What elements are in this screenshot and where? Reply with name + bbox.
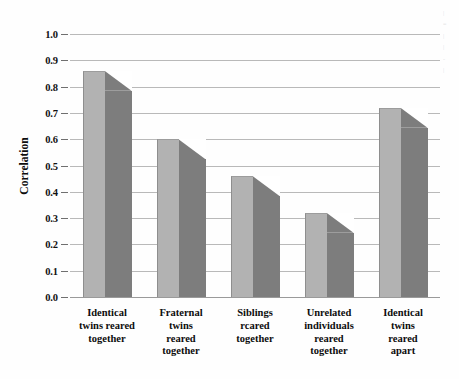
bar: Identicaltwinsrearedapart	[379, 108, 428, 297]
y-axis-tick-mark	[61, 139, 68, 140]
page-edge-caption-line: |	[443, 42, 457, 53]
x-axis-tick-label: Identicaltwins rearedtogether	[70, 307, 144, 345]
page-edge-caption-line: -	[443, 54, 457, 65]
x-axis-tick-label-line: rcared	[218, 320, 292, 333]
x-axis-tick-label-line: Identical	[366, 307, 440, 320]
y-axis-tick-label: 0.9	[45, 55, 58, 66]
x-axis-tick-label-line: apart	[366, 345, 440, 358]
plot-area: 1.00.90.80.70.60.50.40.30.20.10.0 Identi…	[70, 34, 440, 297]
bar-front-face	[83, 71, 105, 297]
bar-top-bevel	[327, 213, 354, 233]
bar-front-face	[305, 213, 327, 297]
y-axis-tick-mark	[61, 34, 68, 35]
bar-top-bevel	[253, 176, 280, 196]
y-axis-tick-label: 0.7	[45, 107, 58, 118]
bar-side-face	[253, 196, 280, 297]
x-axis-tick-label: Siblingsrcaredtogether	[218, 307, 292, 345]
x-axis-tick-label-line: together	[218, 333, 292, 346]
bar-front-face	[231, 176, 253, 297]
bar: Identicaltwins rearedtogether	[83, 71, 132, 297]
x-axis-tick-label-line: reared	[144, 333, 218, 346]
page-edge-caption-line: |	[443, 65, 457, 76]
x-axis-tick-label-line: together	[70, 333, 144, 346]
bar: Siblingsrcaredtogether	[231, 176, 280, 297]
x-axis-tick-label-line: together	[144, 345, 218, 358]
bar-side-face	[401, 128, 428, 297]
x-axis-tick-label-line: Fraternal	[144, 307, 218, 320]
y-axis-tick-label: 0.8	[45, 81, 58, 92]
y-axis-tick-mark	[61, 113, 68, 114]
x-axis-tick-label-line: Siblings	[218, 307, 292, 320]
bar-side-face	[179, 159, 206, 297]
x-axis-tick-label-line: Identical	[70, 307, 144, 320]
gridline	[70, 34, 440, 35]
y-axis-tick-label: 0.5	[45, 160, 58, 171]
y-axis-tick-mark	[61, 271, 68, 272]
x-axis-tick-label-line: twins	[366, 320, 440, 333]
chart-figure: Correlation 1.00.90.80.70.60.50.40.30.20…	[0, 0, 459, 379]
bar-top-bevel	[401, 108, 428, 128]
y-axis-tick-label: 0.4	[45, 186, 58, 197]
bar: Unrelatedindividualsrearedtogether	[305, 213, 354, 297]
y-axis-tick-mark	[61, 218, 68, 219]
y-axis-title-label: Correlation	[18, 137, 30, 194]
x-axis-tick-label: Fraternaltwinsrearedtogether	[144, 307, 218, 358]
bar: Fraternaltwinsrearedtogether	[157, 139, 206, 297]
y-axis-tick-label: 0.2	[45, 239, 58, 250]
page-edge-caption-line: |	[443, 8, 457, 19]
x-axis-tick-label: Unrelatedindividualsrearedtogether	[292, 307, 366, 358]
x-axis-tick-label-line: individuals	[292, 320, 366, 333]
y-axis-tick-mark	[61, 192, 68, 193]
x-axis-tick-label-line: twins reared	[70, 320, 144, 333]
gridline	[70, 60, 440, 61]
y-axis-tick-label: 1.0	[45, 29, 58, 40]
page-edge-caption-line: |	[443, 31, 457, 42]
y-axis-tick-mark	[61, 87, 68, 88]
x-axis-tick-label-line: together	[292, 345, 366, 358]
y-axis-tick-label: 0.1	[45, 265, 58, 276]
page-edge-caption: |=||-|	[443, 8, 457, 76]
x-axis-tick-label-line: reared	[292, 333, 366, 346]
bar-top-bevel	[179, 139, 206, 159]
bar-top-bevel	[105, 71, 132, 91]
x-axis-tick-label-line: reared	[366, 333, 440, 346]
y-axis-tick-label: 0.6	[45, 134, 58, 145]
bar-side-face	[105, 91, 132, 297]
y-axis-tick-mark	[61, 60, 68, 61]
x-axis-tick-label-line: twins	[144, 320, 218, 333]
y-axis-tick-mark	[61, 166, 68, 167]
y-axis-title: Correlation	[16, 34, 32, 297]
y-axis-tick-label: 0.3	[45, 213, 58, 224]
bar-side-face	[327, 233, 354, 297]
y-axis-tick-mark	[61, 244, 68, 245]
bar-front-face	[379, 108, 401, 297]
page-edge-caption-line: =	[443, 19, 457, 30]
y-axis-tick-label: 0.0	[45, 292, 58, 303]
y-axis-tick-mark	[61, 297, 68, 298]
bar-front-face	[157, 139, 179, 297]
x-axis-tick-label-line: Unrelated	[292, 307, 366, 320]
gridline	[70, 297, 440, 298]
x-axis-tick-label: Identicaltwinsrearedapart	[366, 307, 440, 358]
